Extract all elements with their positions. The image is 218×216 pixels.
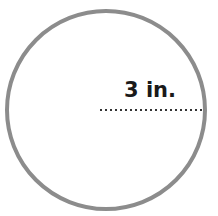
radius-label: 3 in. bbox=[124, 78, 176, 102]
circle-diagram: 3 in. bbox=[0, 0, 218, 216]
